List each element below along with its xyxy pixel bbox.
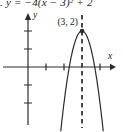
- parabola-figure: . y = −4(x − 3)² + 2 (3, 2) y x: [0, 0, 123, 132]
- vertex-point: [80, 29, 85, 34]
- x-axis-arrowhead-icon: [110, 64, 116, 70]
- vertex-label: (3, 2): [38, 17, 78, 27]
- x-axis-label: x: [108, 52, 112, 61]
- y-axis-label: y: [33, 11, 37, 20]
- y-axis-arrowhead-icon: [25, 13, 31, 20]
